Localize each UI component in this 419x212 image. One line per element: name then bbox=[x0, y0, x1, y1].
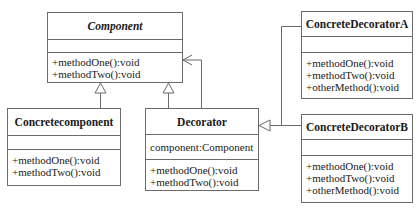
class-concretedecoratora[interactable]: ConcreteDecoratorA +methodOne():void +me… bbox=[301, 11, 413, 99]
methods-section: +methodOne():void +methodTwo():void bbox=[146, 159, 258, 190]
method: +methodOne():void bbox=[306, 57, 408, 69]
class-name: Decorator bbox=[146, 109, 258, 134]
method: +methodOne():void bbox=[306, 160, 408, 172]
method: +otherMethod():void bbox=[306, 81, 408, 93]
generalization-arrow-icon bbox=[259, 120, 270, 131]
attributes-section bbox=[302, 139, 412, 155]
method: +methodTwo():void bbox=[150, 176, 254, 188]
association-line-decorator-component bbox=[183, 60, 202, 108]
methods-section: +methodOne():void +methodTwo():void +oth… bbox=[302, 52, 412, 95]
attribute: component:Component bbox=[150, 141, 254, 153]
method: +otherMethod():void bbox=[306, 184, 408, 196]
attributes-section bbox=[48, 39, 182, 52]
class-name: Concretecomponent bbox=[8, 109, 120, 135]
methods-section: +methodOne():void +methodTwo():void +oth… bbox=[302, 155, 412, 198]
generalization-line-concretedecoratora bbox=[270, 27, 301, 126]
method: +methodOne():void bbox=[150, 164, 254, 176]
method: +methodOne():void bbox=[12, 154, 116, 166]
method: +methodOne():void bbox=[52, 56, 178, 68]
class-name: Component bbox=[48, 13, 182, 39]
attributes-section bbox=[302, 36, 412, 52]
generalization-arrow-icon bbox=[95, 83, 106, 93]
class-concretecomponent[interactable]: Concretecomponent +methodOne():void +met… bbox=[7, 108, 121, 186]
class-name: ConcreteDecoratorB bbox=[302, 115, 412, 139]
class-decorator[interactable]: Decorator component:Component +methodOne… bbox=[145, 108, 259, 191]
methods-section: +methodOne():void +methodTwo():void bbox=[8, 149, 120, 180]
method: +methodTwo():void bbox=[12, 166, 116, 178]
class-component[interactable]: Component +methodOne():void +methodTwo()… bbox=[47, 12, 183, 83]
generalization-arrow-icon bbox=[163, 83, 174, 93]
method: +methodTwo():void bbox=[306, 69, 408, 81]
attributes-section bbox=[8, 135, 120, 149]
methods-section: +methodOne():void +methodTwo():void bbox=[48, 52, 182, 82]
method: +methodTwo():void bbox=[52, 68, 178, 80]
class-name: ConcreteDecoratorA bbox=[302, 12, 412, 36]
method: +methodTwo():void bbox=[306, 172, 408, 184]
attributes-section: component:Component bbox=[146, 134, 258, 159]
class-concretedecoratorb[interactable]: ConcreteDecoratorB +methodOne():void +me… bbox=[301, 114, 413, 203]
